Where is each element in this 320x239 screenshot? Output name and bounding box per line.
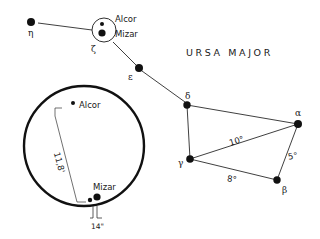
star-zeta-label: ζ <box>91 44 96 54</box>
star-alpha-label: α <box>295 108 301 118</box>
inset-alcor-label: Alcor <box>79 100 101 110</box>
inset-mizar-b-dot <box>88 198 92 202</box>
mizar-dot <box>98 29 105 36</box>
pair-separation-ticks <box>90 206 102 218</box>
star-zeta-group: Alcor Mizar ζ <box>91 14 138 54</box>
star-epsilon: ε <box>128 64 143 82</box>
zeta-ring <box>92 18 116 42</box>
inset-alcor-dot <box>71 101 75 105</box>
line-delta-alpha <box>187 105 298 124</box>
star-gamma-label: γ <box>178 158 183 168</box>
line-eta-zeta <box>38 23 92 30</box>
mizar-pair-separation-label: 14" <box>91 222 104 231</box>
line-epsilon-delta <box>142 71 185 102</box>
distance-alpha-beta-label: 5° <box>287 150 298 162</box>
star-gamma: γ <box>178 155 194 168</box>
line-delta-gamma <box>187 105 190 159</box>
inset-telescope-view: Alcor 11,8' Mizar 14" <box>24 86 144 231</box>
inset-mizar-a-dot <box>93 193 100 200</box>
star-epsilon-label: ε <box>128 72 133 82</box>
distance-gamma-beta-label: 8° <box>226 173 237 184</box>
alcor-label: Alcor <box>115 14 137 24</box>
distance-gamma-alpha-label: 10° <box>228 134 245 148</box>
mizar-label: Mizar <box>115 29 138 39</box>
ursa-major-diagram: URSA MAJOR η Alcor Mizar ζ ε δ α <box>0 0 320 239</box>
star-alpha: α <box>294 108 302 128</box>
star-eta-label: η <box>28 28 33 38</box>
constellation-title: URSA MAJOR <box>186 47 273 58</box>
alcor-dot <box>100 22 104 26</box>
star-delta-label: δ <box>185 91 190 101</box>
star-delta: δ <box>183 91 190 109</box>
star-eta: η <box>27 18 35 38</box>
star-beta-label: β <box>282 185 287 195</box>
line-zeta-epsilon <box>113 42 136 65</box>
star-beta: β <box>273 176 287 195</box>
inset-mizar-label: Mizar <box>93 182 116 192</box>
